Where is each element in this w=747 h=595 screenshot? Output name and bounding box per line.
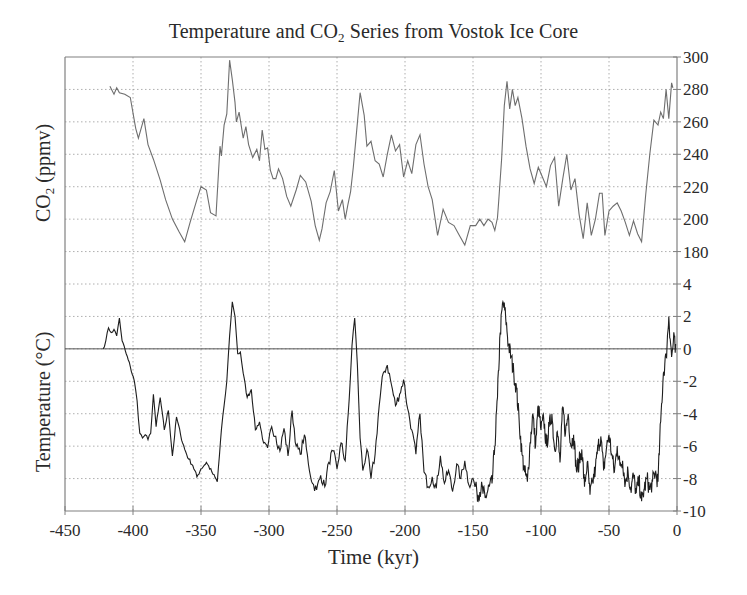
vostok-chart: 300280260240220200180420-2-4-6-8-10-450-… [0, 0, 747, 595]
y-tick-label: 260 [683, 113, 709, 132]
x-tick-label: -200 [389, 521, 420, 540]
co2-axis-label: CO2 (ppmv) [32, 124, 58, 222]
y-tick-label: 220 [683, 178, 709, 197]
y-tick-label: 240 [683, 145, 709, 164]
x-tick-label: -250 [321, 521, 352, 540]
co2-series-line [110, 60, 673, 245]
y-tick-label: 280 [683, 80, 709, 99]
x-tick-label: -450 [49, 521, 80, 540]
x-tick-label: -350 [185, 521, 216, 540]
y-tick-label: 4 [683, 275, 692, 294]
y-tick-label: 200 [683, 210, 709, 229]
x-tick-label: -150 [457, 521, 488, 540]
x-tick-label: -50 [598, 521, 621, 540]
y-tick-label: -8 [683, 470, 697, 489]
x-tick-label: 0 [673, 521, 682, 540]
y-tick-label: 0 [683, 340, 692, 359]
y-tick-label: -6 [683, 437, 697, 456]
y-tick-label: 180 [683, 243, 709, 262]
y-tick-label: -2 [683, 372, 697, 391]
temperature-axis-label: Temperature (°C) [32, 332, 55, 472]
gridlines [65, 57, 677, 511]
y-tick-label: 2 [683, 307, 692, 326]
temperature-axis-label-text: Temperature (°C) [32, 332, 54, 472]
x-tick-label: -100 [525, 521, 556, 540]
co2-axis-label-subscript: 2 [42, 188, 57, 195]
x-axis-label: Time (kyr) [0, 545, 747, 570]
y-tick-label: -10 [683, 502, 706, 521]
y-tick-label: 300 [683, 48, 709, 67]
x-tick-label: -400 [117, 521, 148, 540]
temperature-series-line [103, 302, 676, 502]
y-tick-label: -4 [683, 405, 698, 424]
co2-axis-label-text-rest: (ppmv) [32, 124, 54, 188]
x-tick-label: -300 [253, 521, 284, 540]
co2-axis-label-text: CO [32, 194, 54, 222]
